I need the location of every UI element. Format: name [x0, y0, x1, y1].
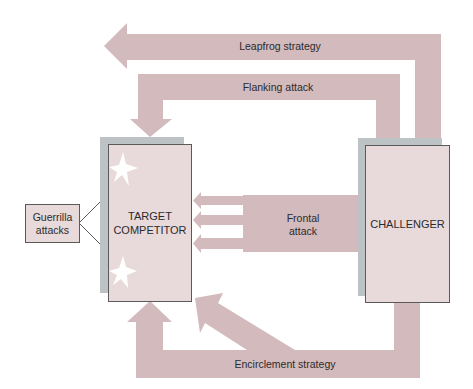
challenger-box: CHALLENGER — [365, 145, 450, 303]
starburst-icon — [108, 150, 148, 195]
starburst-icon — [108, 254, 148, 299]
leapfrog-label: Leapfrog strategy — [230, 40, 330, 53]
encirclement-label: Encirclement strategy — [225, 358, 345, 371]
flanking-label: Flanking attack — [233, 81, 323, 94]
guerrilla-attacks-box: Guerrilla attacks — [25, 204, 80, 243]
guerrilla-attacks-label: Guerrilla attacks — [26, 211, 79, 237]
frontal-attack-label: Frontal attack — [268, 212, 338, 238]
target-competitor-label: TARGET COMPETITOR — [109, 209, 191, 237]
challenger-label: CHALLENGER — [366, 217, 449, 231]
